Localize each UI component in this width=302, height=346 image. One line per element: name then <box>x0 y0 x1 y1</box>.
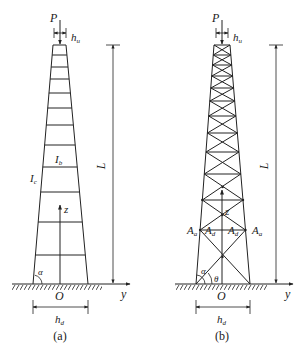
panel-b: z Aa Ad Ad Aa α θ L y O hd P hu <box>175 11 293 343</box>
y-axis-label-a: y <box>120 287 127 301</box>
diag-left-label-b: Ad <box>204 224 216 238</box>
y-axis-label-b: y <box>284 287 291 301</box>
ground-a <box>12 284 130 290</box>
angle-alpha-arc-b <box>197 275 205 284</box>
caption-a: (a) <box>53 329 66 343</box>
angle-theta-label-b: θ <box>214 274 219 284</box>
chord-left-label-b: Aa <box>186 224 198 238</box>
angle-alpha-label-b: α <box>201 266 206 276</box>
height-label-b: L <box>257 162 271 170</box>
tower-truss-b <box>196 45 250 284</box>
angle-theta-arc-b <box>208 273 212 284</box>
load-label-b: P <box>211 11 220 25</box>
chord-right-label-b: Aa <box>251 224 263 238</box>
beam-label-a: Ib <box>54 153 63 167</box>
origin-label-a: O <box>55 289 64 303</box>
z-axis-label-a: z <box>63 203 69 215</box>
caption-b: (b) <box>215 329 229 343</box>
angle-label-a: α <box>38 267 43 277</box>
ground-b <box>175 284 293 290</box>
truss-joints-b <box>199 186 247 258</box>
base-width-label-b: hd <box>217 313 227 327</box>
top-width-label-b: hu <box>233 31 243 45</box>
height-dimension-a <box>106 45 120 283</box>
top-width-label-a: hu <box>71 31 81 45</box>
tower-diagram: P hu Ib Ic z α L y O hd (a) <box>0 0 302 346</box>
z-axis-label-b: z <box>224 205 230 217</box>
column-label-a: Ic <box>29 172 38 186</box>
diag-right-label-b: Ad <box>227 224 239 238</box>
load-label-a: P <box>49 11 58 25</box>
origin-label-b: O <box>217 289 226 303</box>
height-dimension-b <box>269 45 283 283</box>
base-width-label-a: hd <box>55 313 65 327</box>
panel-a: P hu Ib Ic z α L y O hd (a) <box>12 11 130 343</box>
height-label-a: L <box>94 162 108 170</box>
